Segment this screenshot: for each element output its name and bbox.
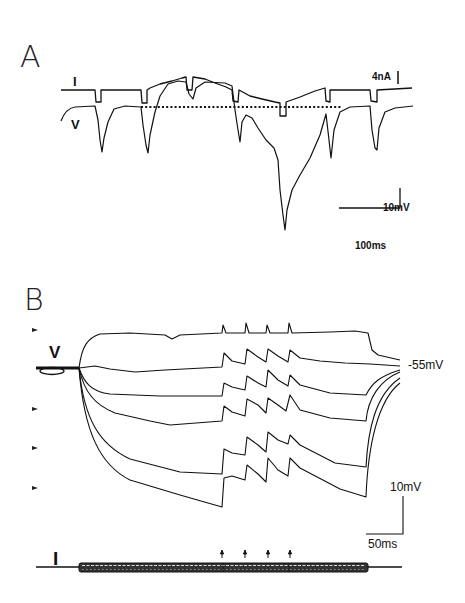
panel-b-stimulus-arrows (221, 550, 292, 558)
stimulus-arrow-icon (267, 550, 270, 558)
panel-a-scale-bar (339, 188, 400, 208)
panel-b-scale-bar (366, 496, 403, 534)
panel-b-voltage-trace-1 (79, 323, 400, 368)
panel-b-voltage-trace-5 (79, 368, 400, 474)
stimulus-arrow-icon (244, 550, 247, 558)
figure-traces (0, 0, 465, 603)
arrowhead-marker-icon (32, 407, 38, 411)
panel-b-voltage-trace-4 (79, 368, 400, 425)
arrowhead-marker-icon (32, 446, 38, 450)
panel-b-current-step-block (79, 563, 368, 572)
arrowhead-marker-icon (32, 486, 38, 490)
panel-b-voltage-trace-3 (79, 368, 400, 396)
panel-b-arrowhead-markers (32, 328, 38, 490)
stimulus-arrow-icon (221, 550, 224, 558)
panel-b-voltage-trace-2 (79, 349, 400, 372)
arrowhead-marker-icon (32, 328, 38, 332)
stimulus-arrow-icon (289, 550, 292, 558)
